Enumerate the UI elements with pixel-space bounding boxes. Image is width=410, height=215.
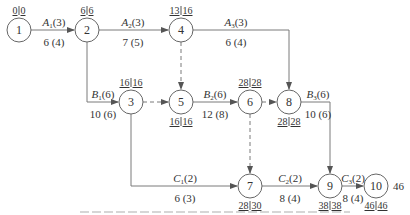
node-10-label: 10 bbox=[370, 180, 382, 192]
activity-b1-duration: 10 (6) bbox=[90, 108, 117, 120]
activity-a2-label: A2(3) bbox=[121, 16, 144, 32]
activity-b1-label: B1(6) bbox=[91, 88, 114, 104]
node-10-times: 4646 bbox=[365, 200, 388, 211]
activity-a1-label: A1(3) bbox=[42, 16, 65, 32]
activity-c2-label: C2(2) bbox=[278, 172, 302, 188]
activity-b3-label: B3(6) bbox=[306, 88, 329, 104]
node-4-label: 4 bbox=[178, 24, 184, 36]
activity-a3-duration: 6 (4) bbox=[225, 36, 246, 48]
figure-caption-cropped bbox=[80, 207, 350, 215]
node-3-times: 1616 bbox=[120, 77, 143, 88]
activity-c3-duration: 8 (4) bbox=[342, 192, 363, 204]
node-5-label: 5 bbox=[178, 96, 184, 108]
activity-c1-duration: 6 (3) bbox=[174, 192, 195, 204]
node-5-times: 1616 bbox=[170, 116, 193, 127]
node-6-label: 6 bbox=[247, 96, 253, 108]
node-2-times: 66 bbox=[81, 5, 94, 16]
total-duration: 46 bbox=[393, 180, 404, 192]
activity-a3-label: A3(3) bbox=[224, 16, 247, 32]
node-8-label: 8 bbox=[286, 96, 292, 108]
activity-c3-label: C3(2) bbox=[341, 172, 365, 188]
node-1-times: 00 bbox=[13, 5, 26, 16]
activity-b3-duration: 10 (6) bbox=[305, 108, 332, 120]
node-9-label: 9 bbox=[327, 180, 333, 192]
node-2-label: 2 bbox=[84, 24, 90, 36]
activity-a1-duration: 6 (4) bbox=[43, 36, 64, 48]
activity-b2-duration: 12 (8) bbox=[202, 108, 229, 120]
node-7-label: 7 bbox=[247, 180, 253, 192]
activity-a2-duration: 7 (5) bbox=[122, 36, 143, 48]
activity-b2-label: B2(6) bbox=[203, 88, 226, 104]
activity-c1-label: C1(2) bbox=[173, 172, 197, 188]
node-8-times: 2828 bbox=[278, 116, 301, 127]
node-1-label: 1 bbox=[16, 24, 22, 36]
node-3-label: 3 bbox=[128, 96, 134, 108]
activity-c2-duration: 8 (4) bbox=[279, 192, 300, 204]
node-4-times: 1316 bbox=[170, 5, 193, 16]
node-6-times: 2828 bbox=[239, 77, 262, 88]
